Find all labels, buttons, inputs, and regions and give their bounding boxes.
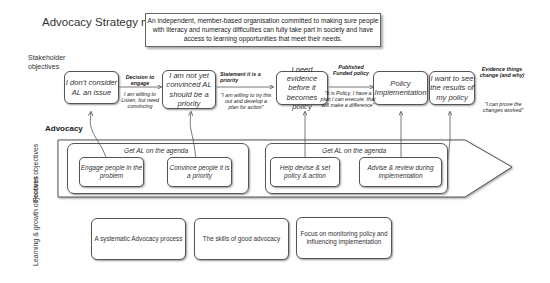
process-group-2-heading: Get AL on the agenda bbox=[322, 147, 386, 154]
transition-quote-2: "I am willing to try this out and develo… bbox=[220, 92, 272, 111]
process-box-advise-review: Advise & review during implementation bbox=[359, 157, 442, 187]
transition-label-1: Decision to engage bbox=[120, 74, 160, 86]
stakeholder-box-4: Policy Implementation bbox=[373, 71, 428, 105]
process-box-convince: Convince people it is a priority bbox=[167, 157, 232, 187]
transition-label-3: Published Funded policy bbox=[332, 64, 370, 76]
transition-label-2: Statement it is a priority bbox=[220, 71, 270, 83]
transition-quote-1: I am willing to Listen, but need convinc… bbox=[117, 91, 163, 110]
stakeholder-box-1: I don't consider AL an issue bbox=[64, 71, 119, 104]
process-box-help-devise: Help devise & set policy & action bbox=[270, 157, 340, 187]
mission-statement: An independent, member-based organisatio… bbox=[145, 13, 381, 47]
process-group-1-heading: Get AL on the agenda bbox=[124, 147, 188, 154]
stakeholder-box-2: I am not yet convinced AL should be a pr… bbox=[162, 70, 216, 109]
learning-box-monitoring: Focus on monitoring policy and influenci… bbox=[296, 217, 392, 259]
stakeholder-box-5: I want to see the results of my policy bbox=[429, 71, 475, 105]
row-label-learning: Learning & growth objectives bbox=[32, 206, 41, 266]
transition-quote-3: "It is Policy, I have a plan I can execu… bbox=[320, 90, 376, 109]
row-label-stakeholder: Stakeholder objectives bbox=[28, 54, 78, 71]
transition-quote-4: "I can prove the changes worked" bbox=[475, 101, 531, 113]
advocacy-label: Advocacy bbox=[45, 124, 83, 133]
learning-box-systematic: A systematic Advocacy process bbox=[91, 218, 186, 260]
learning-box-skills: The skills of good advocacy bbox=[194, 218, 289, 260]
transition-label-4: Evidence things change (and why) bbox=[477, 66, 527, 78]
process-box-engage: Engage people in the problem bbox=[79, 157, 144, 187]
